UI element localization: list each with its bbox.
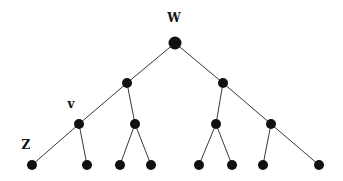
node-label-v: v xyxy=(67,97,76,111)
tree-node-lf4 xyxy=(146,160,156,170)
tree-diagram: W v Z xyxy=(0,0,343,181)
tree-edge xyxy=(135,124,151,165)
tree-edges xyxy=(32,43,319,165)
tree-node-l2b xyxy=(130,119,140,129)
tree-labels: W v Z xyxy=(22,11,182,152)
tree-node-lf8 xyxy=(314,160,324,170)
tree-node-l1b xyxy=(218,78,228,88)
tree-edge xyxy=(271,124,319,165)
tree-edge xyxy=(223,83,271,124)
tree-edge xyxy=(199,124,216,165)
tree-edge xyxy=(127,43,175,83)
tree-node-v xyxy=(74,119,84,129)
tree-edge xyxy=(216,83,223,124)
tree-edge xyxy=(175,43,223,83)
tree-node-l1a xyxy=(122,78,132,88)
tree-edge xyxy=(79,83,127,124)
tree-edge xyxy=(79,124,87,165)
root-label-w: W xyxy=(166,11,181,25)
tree-node-lf2 xyxy=(82,160,92,170)
tree-node-l2d xyxy=(266,119,276,129)
tree-edge xyxy=(263,124,271,165)
tree-edge xyxy=(32,124,79,165)
tree-edge xyxy=(127,83,135,124)
tree-node-l2c xyxy=(211,119,221,129)
tree-node-lf6 xyxy=(227,160,237,170)
node-label-z: Z xyxy=(22,138,31,152)
tree-node-z xyxy=(27,160,37,170)
tree-node-lf3 xyxy=(115,160,125,170)
tree-edge xyxy=(120,124,135,165)
tree-node-w xyxy=(169,37,182,50)
tree-edge xyxy=(216,124,232,165)
tree-node-lf5 xyxy=(194,160,204,170)
tree-node-lf7 xyxy=(258,160,268,170)
